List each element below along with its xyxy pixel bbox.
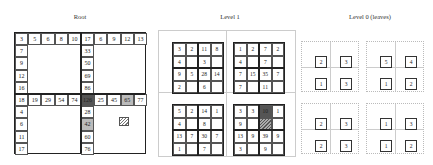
block-divider-v — [258, 43, 259, 93]
root-divider-v — [80, 33, 82, 153]
root-cell: 42 — [81, 118, 94, 130]
level1-cell: 3 — [234, 105, 247, 118]
level0-quadrant: 5412 — [366, 41, 424, 92]
level1-cell — [211, 118, 224, 131]
level1-cell: 9 — [173, 68, 186, 81]
root-cell: 33 — [81, 45, 94, 57]
block-divider-v — [197, 105, 198, 155]
leaf-box: 2 — [405, 78, 417, 90]
hatched-marker — [119, 117, 129, 126]
level1-cell: 10 — [259, 105, 272, 118]
level1-cell: 35 — [259, 68, 272, 81]
root-cell: 9 — [15, 57, 28, 69]
grid-line — [395, 104, 396, 153]
level1-cell: 7 — [186, 130, 199, 143]
root-cell: 12 — [15, 70, 28, 82]
level1-cell — [247, 56, 260, 69]
grid-line — [395, 42, 396, 91]
root-cell: 3 — [15, 33, 28, 45]
level1-cell: 7 — [272, 68, 285, 81]
level1-cell: 4 — [173, 56, 186, 69]
level1-block: 127247715357711 — [233, 42, 285, 94]
root-cell: 86 — [81, 82, 94, 94]
root-cell: 6 — [41, 33, 54, 45]
leaf-box: 5 — [380, 56, 392, 68]
level1-cell: 2 — [186, 43, 199, 56]
root-cell: 77 — [134, 94, 147, 106]
level1-cell: 4 — [173, 118, 186, 131]
level1-cell — [247, 143, 260, 156]
title-level0: Level 0 (leaves) — [335, 13, 405, 20]
root-cell: 50 — [81, 57, 94, 69]
block-divider-v — [258, 105, 259, 155]
root-cell: 18 — [15, 94, 28, 106]
level1-cell: 4 — [234, 56, 247, 69]
leaf-box: 2 — [315, 118, 327, 130]
level1-cell — [272, 56, 285, 69]
root-grid: 3568107912161769121333506986181929547446… — [14, 32, 146, 154]
level1-cell: 9 — [234, 118, 247, 131]
level1-cell: 1 — [234, 43, 247, 56]
level1-cell: 3 — [173, 43, 186, 56]
level1-cell: 7 — [211, 130, 224, 143]
leaf-box: 3 — [340, 140, 352, 152]
leaf-box: 3 — [340, 56, 352, 68]
level1-block: 321184395281426 — [172, 42, 224, 94]
level1-cell: 1 — [173, 143, 186, 156]
root-cell: 28 — [81, 106, 94, 118]
level1-cell: 7 — [198, 143, 211, 156]
level1-cell: 7 — [259, 56, 272, 69]
level1-cell: 13 — [173, 130, 186, 143]
root-cell: 25 — [94, 94, 107, 106]
root-cell: 9 — [107, 33, 120, 45]
level1-cell — [211, 56, 224, 69]
level1-cell: 11 — [259, 81, 272, 94]
level1-divider-v — [226, 30, 227, 157]
root-cell: 54 — [55, 94, 68, 106]
level1-cell: 39 — [259, 130, 272, 143]
leaf-box: 2 — [405, 140, 417, 152]
level1-cell: 3 — [247, 105, 260, 118]
level1-cell: 6 — [198, 81, 211, 94]
leaf-box: 2 — [315, 56, 327, 68]
level1-block: 521414813730717 — [172, 104, 224, 156]
root-cell: 17 — [81, 33, 94, 45]
root-cell: 60 — [81, 131, 94, 143]
level1-cell: 13 — [234, 130, 247, 143]
level1-cell: 9 — [259, 143, 272, 156]
leaf-box: 1 — [380, 118, 392, 130]
level1-cell: 5 — [173, 105, 186, 118]
level1-cell: 2 — [272, 43, 285, 56]
block-divider-v — [197, 43, 198, 93]
level1-cell — [259, 118, 272, 131]
grid-line — [330, 42, 331, 91]
level1-cell: 14 — [198, 105, 211, 118]
level0-quadrant: 2323 — [301, 103, 359, 154]
root-cell: 10 — [68, 33, 81, 45]
level1-cell: 14 — [211, 68, 224, 81]
root-cell: 6 — [94, 33, 107, 45]
level1-cell: 28 — [198, 68, 211, 81]
level1-cell — [186, 143, 199, 156]
level1-cell: 15 — [247, 68, 260, 81]
level1-cell: 1 — [272, 105, 285, 118]
root-cell: 76 — [81, 143, 94, 155]
level1-cell — [247, 118, 260, 131]
root-cell: 69 — [81, 70, 94, 82]
root-cell: 8 — [55, 33, 68, 45]
leaf-box: 3 — [340, 118, 352, 130]
leaf-box: 2 — [315, 140, 327, 152]
root-cell: 5 — [28, 33, 41, 45]
leaf-box: 1 — [315, 78, 327, 90]
root-cell: 12 — [121, 33, 134, 45]
leaf-box: 1 — [380, 78, 392, 90]
level1-cell: 9 — [247, 130, 260, 143]
root-cell: 65 — [121, 94, 134, 106]
root-cell: 4 — [15, 106, 28, 118]
level1-cell — [186, 81, 199, 94]
root-cell: 16 — [15, 82, 28, 94]
root-cell: 13 — [134, 33, 147, 45]
level1-cell — [272, 118, 285, 131]
title-root: Root — [60, 13, 100, 20]
level1-cell: 2 — [247, 43, 260, 56]
